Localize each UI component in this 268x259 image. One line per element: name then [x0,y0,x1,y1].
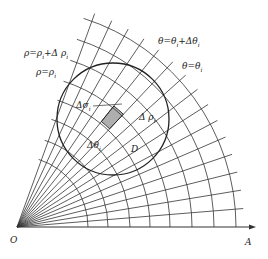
hatched-cell [101,106,123,129]
label-rho-plus: ρ=ρi+Δ ρi [24,49,68,60]
label-region-d: D [131,145,138,154]
ray-lines [17,14,243,227]
polar-diagram: ρ=ρi+Δ ρi ρ=ρi θ=θi+Δθi θ=θi Δσi Δ ρi Δθ… [0,0,268,259]
axis-arrow-icon [249,225,256,230]
label-theta: θ=θi [182,62,202,73]
ray-line [17,89,197,227]
ray-line [17,190,241,227]
label-delta-theta: Δθi [87,141,101,152]
label-theta-plus: θ=θi+Δθi [158,37,200,48]
label-axis-a: A [245,238,252,247]
polar-grid-figure [0,0,268,259]
ray-line [17,14,95,227]
delta-sigma-leader [93,104,122,106]
label-delta-rho: Δ ρi [139,113,156,124]
label-delta-sigma: Δσi [76,101,91,112]
label-rho: ρ=ρi [36,68,56,79]
label-origin: O [10,236,17,245]
